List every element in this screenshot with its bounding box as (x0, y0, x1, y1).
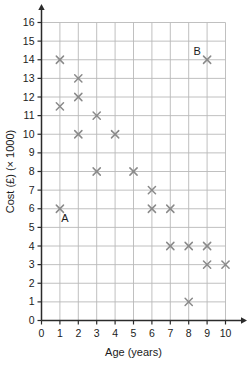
y-tick-label: 3 (29, 258, 35, 270)
y-tick-label: 2 (29, 277, 35, 289)
x-tick-label: 10 (220, 327, 232, 339)
y-tick-label: 13 (23, 72, 35, 84)
y-tick-label: 5 (29, 221, 35, 233)
x-tick-label: 9 (204, 327, 210, 339)
y-tick-label: 16 (23, 16, 35, 28)
annotation-label-a: A (61, 212, 69, 224)
y-tick-label: 14 (23, 53, 35, 65)
y-tick-label: 6 (29, 202, 35, 214)
y-tick-label: 15 (23, 35, 35, 47)
x-tick-label: 2 (75, 327, 81, 339)
x-tick-label: 8 (186, 327, 192, 339)
x-axis-title: Age (years) (105, 346, 162, 358)
y-tick-label: 8 (29, 165, 35, 177)
y-tick-label: 7 (29, 184, 35, 196)
x-tick-label: 1 (57, 327, 63, 339)
y-tick-label: 9 (29, 146, 35, 158)
chart-background (0, 0, 251, 368)
annotation-label-b: B (193, 45, 200, 57)
y-tick-label: 12 (23, 91, 35, 103)
scatter-chart: 012345678910012345678910111213141516 AB … (0, 0, 251, 368)
y-tick-label: 1 (29, 295, 35, 307)
y-axis-title: Cost (£) (× 1000) (4, 130, 16, 213)
x-tick-label: 5 (131, 327, 137, 339)
y-tick-label: 0 (29, 314, 35, 326)
chart-canvas: 012345678910012345678910111213141516 AB … (0, 0, 251, 368)
y-tick-label: 10 (23, 128, 35, 140)
x-tick-label: 4 (112, 327, 118, 339)
y-tick-label: 11 (24, 109, 35, 121)
x-tick-label: 3 (94, 327, 100, 339)
y-tick-label: 4 (29, 240, 35, 252)
x-tick-label: 7 (167, 327, 173, 339)
x-tick-label: 6 (149, 327, 155, 339)
x-tick-label: 0 (39, 327, 45, 339)
